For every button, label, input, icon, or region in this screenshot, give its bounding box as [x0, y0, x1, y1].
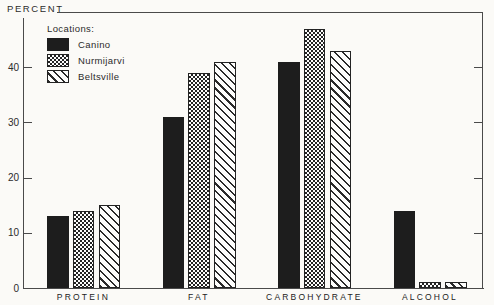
legend: Locations: CaninoNurmijarviBeltsville: [47, 23, 125, 86]
y-tick-right-30: [474, 122, 482, 123]
bar-canino-carbohydrate: [278, 62, 300, 288]
bar-beltsville-fat: [214, 62, 236, 288]
y-tick-label-20: 20: [0, 172, 19, 183]
y-tick-right-40: [474, 67, 482, 68]
plot-frame-top: [57, 12, 483, 13]
y-axis-title: PERCENT: [7, 3, 64, 14]
legend-swatch-nurmijarvi: [47, 54, 69, 67]
x-label-alcohol: ALCOHOL: [370, 292, 490, 302]
y-tick-left-10: [24, 233, 32, 234]
x-label-carbohydrate: CARBOHYDRATE: [254, 292, 374, 302]
bar-beltsville-carbohydrate: [330, 51, 352, 288]
x-axis-line: [23, 288, 484, 289]
x-label-fat: FAT: [139, 292, 259, 302]
bar-nurmijarvi-fat: [188, 73, 210, 288]
bar-beltsville-protein: [99, 205, 121, 288]
bar-canino-alcohol: [394, 211, 416, 288]
y-tick-label-30: 30: [0, 117, 19, 128]
y-tick-label-40: 40: [0, 62, 19, 73]
legend-item-canino: Canino: [47, 38, 125, 51]
bar-nurmijarvi-protein: [73, 211, 95, 288]
y-tick-right-20: [474, 178, 482, 179]
y-tick-left-40: [24, 67, 32, 68]
bar-chart-figure: PERCENT Locations: CaninoNurmijarviBelts…: [0, 0, 494, 305]
legend-swatch-canino: [47, 38, 69, 51]
legend-swatch-beltsville: [47, 70, 69, 83]
legend-item-beltsville: Beltsville: [47, 70, 125, 83]
legend-title: Locations:: [47, 23, 125, 34]
bar-canino-fat: [163, 117, 185, 288]
y-tick-left-20: [24, 178, 32, 179]
x-label-protein: PROTEIN: [23, 292, 143, 302]
plot-frame-right: [482, 12, 483, 289]
y-tick-label-10: 10: [0, 227, 19, 238]
y-tick-right-10: [474, 233, 482, 234]
y-tick-label-0: 0: [0, 283, 19, 294]
legend-rows: CaninoNurmijarviBeltsville: [47, 38, 125, 83]
bar-beltsville-alcohol: [445, 282, 467, 288]
legend-item-nurmijarvi: Nurmijarvi: [47, 54, 125, 67]
bar-nurmijarvi-carbohydrate: [304, 29, 326, 288]
legend-label-nurmijarvi: Nurmijarvi: [78, 55, 125, 66]
bar-canino-protein: [47, 216, 69, 288]
legend-label-canino: Canino: [78, 39, 111, 50]
bar-nurmijarvi-alcohol: [419, 282, 441, 288]
legend-label-beltsville: Beltsville: [78, 71, 120, 82]
y-axis-line: [23, 18, 24, 289]
y-tick-left-30: [24, 122, 32, 123]
